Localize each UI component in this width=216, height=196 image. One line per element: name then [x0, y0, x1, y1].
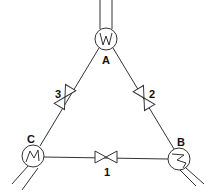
valve-3-label: 3 [55, 88, 61, 100]
valve-2-upper-icon [133, 85, 149, 101]
node-a-inlet-pipes [100, 0, 112, 29]
valve-1-label: 1 [104, 166, 110, 178]
node-a-circle-icon [95, 28, 117, 50]
pipe-a-to-b [113, 48, 174, 149]
node-b-outlet-pipes [180, 168, 204, 186]
node-c-label: C [27, 133, 35, 145]
valve-1-right-icon [106, 151, 117, 163]
valve-1[interactable]: 1 [95, 151, 117, 178]
node-c[interactable]: C [22, 133, 44, 167]
pipe-a-to-c [40, 48, 99, 146]
node-b-label: B [177, 136, 185, 148]
node-b[interactable]: B [168, 136, 190, 170]
valve-2-label: 2 [149, 88, 155, 100]
valve-3-upper-icon [60, 84, 76, 100]
valve-1-left-icon [95, 151, 106, 163]
node-c-outlet-pipes [12, 166, 38, 190]
pipe-network-diagram: A C B 1 3 2 [0, 0, 216, 196]
node-a[interactable]: A [95, 28, 117, 66]
node-a-label: A [102, 54, 110, 66]
